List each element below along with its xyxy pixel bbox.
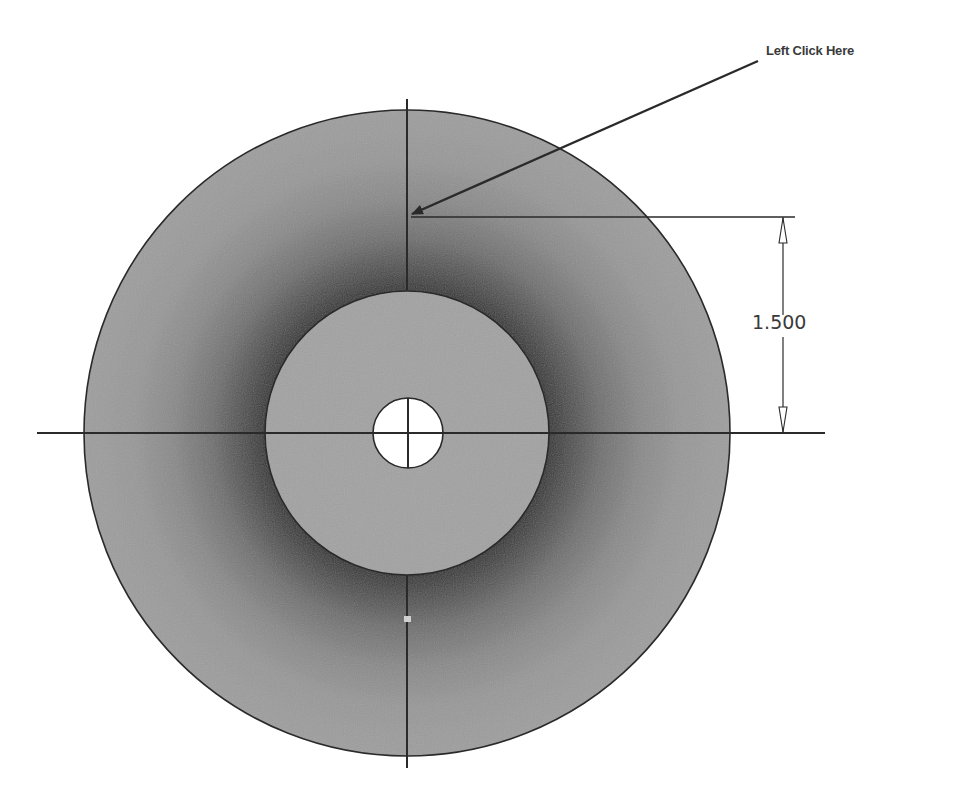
dimension-arrow-down-icon <box>779 407 787 432</box>
dimension-value[interactable]: 1.500 <box>752 311 806 333</box>
dimension-arrow-up-icon <box>779 218 787 243</box>
grip-point[interactable] <box>404 616 411 622</box>
callout-label: Left Click Here <box>766 43 854 58</box>
drawing-canvas[interactable] <box>0 0 974 798</box>
